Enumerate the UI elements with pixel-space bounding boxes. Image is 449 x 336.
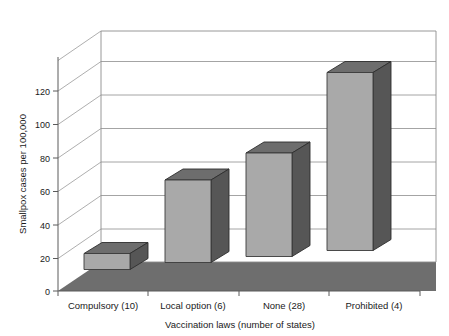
smallpox-vaccination-bar-chart: 120 100 80 60 40 20 0 Smallpox cases per… <box>0 0 449 336</box>
depth-line-60 <box>58 162 101 192</box>
category-label-none: None (28) <box>263 300 305 311</box>
depth-line-120 <box>58 62 101 92</box>
chart-canvas: 120 100 80 60 40 20 0 Smallpox cases per… <box>0 0 449 336</box>
y-tick-label-20: 20 <box>40 254 50 264</box>
bar-side-face-3 <box>292 142 310 257</box>
bar-local-option <box>165 169 229 263</box>
bar-front-face-3 <box>246 153 292 257</box>
bar-side-face-4 <box>373 62 391 251</box>
bar-front-face-4 <box>327 73 373 251</box>
category-label-prohibited: Prohibited (4) <box>345 300 402 311</box>
y-tick-label-40: 40 <box>40 221 50 231</box>
depth-line-80 <box>58 129 101 159</box>
category-label-compulsory: Compulsory (10) <box>68 300 138 311</box>
x-axis-title: Vaccination laws (number of states) <box>165 319 315 330</box>
bar-front-face-1 <box>84 254 130 270</box>
bar-none <box>246 142 310 257</box>
bar-side-face-2 <box>211 169 229 263</box>
bar-front-face-2 <box>165 180 211 263</box>
y-tick-label-120: 120 <box>35 87 50 97</box>
y-tick-label-0: 0 <box>45 287 50 297</box>
depth-line-40 <box>58 196 101 226</box>
category-label-local-option: Local option (6) <box>160 300 225 311</box>
y-tick-label-100: 100 <box>35 120 50 130</box>
depth-line-top <box>58 31 101 61</box>
y-tick-label-60: 60 <box>40 187 50 197</box>
bar-prohibited <box>327 62 391 251</box>
y-tick-label-80: 80 <box>40 154 50 164</box>
x-axis-ticks <box>58 291 420 296</box>
depth-line-100 <box>58 95 101 125</box>
y-axis-tick-labels: 120 100 80 60 40 20 0 <box>35 87 50 297</box>
y-axis-ticks <box>53 91 58 291</box>
depth-connectors-group <box>58 31 101 259</box>
x-axis-category-labels: Compulsory (10) Local option (6) None (2… <box>68 300 403 311</box>
y-axis-title: Smallpox cases per 100,000 <box>17 114 28 234</box>
